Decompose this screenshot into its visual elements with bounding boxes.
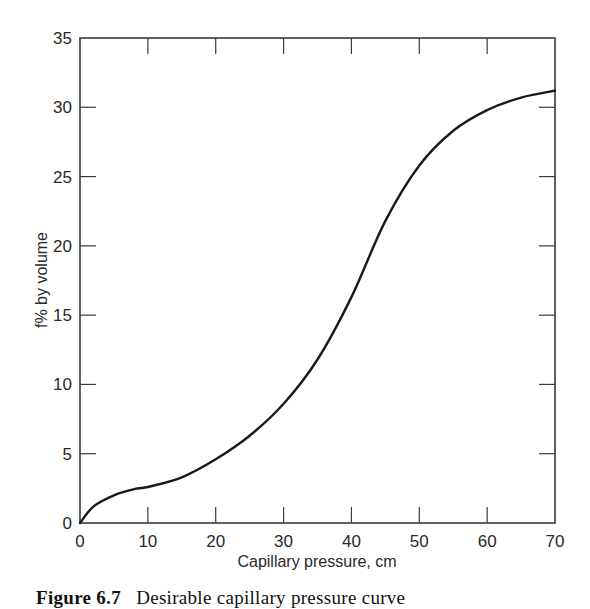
figure-caption: Figure 6.7 Desirable capillary pressure …	[36, 587, 405, 609]
y-tick-label: 10	[53, 375, 72, 394]
x-tick-label: 70	[546, 532, 565, 551]
axis-tick-labels: 01020304050607005101520253035	[53, 29, 564, 551]
data-curve	[80, 91, 555, 523]
y-tick-label: 35	[53, 29, 72, 48]
y-tick-label: 20	[53, 237, 72, 256]
y-tick-label: 5	[63, 445, 72, 464]
caption-text: Desirable capillary pressure curve	[136, 587, 405, 608]
x-tick-label: 30	[274, 532, 293, 551]
x-axis-title: Capillary pressure, cm	[237, 553, 396, 570]
caption-label: Figure 6.7	[36, 587, 121, 608]
y-tick-label: 25	[53, 168, 72, 187]
y-tick-label: 0	[63, 514, 72, 533]
x-tick-label: 20	[206, 532, 225, 551]
y-axis-title: f% by volume	[33, 232, 50, 328]
x-tick-label: 0	[75, 532, 84, 551]
x-tick-label: 10	[138, 532, 157, 551]
y-tick-label: 15	[53, 306, 72, 325]
x-tick-label: 60	[478, 532, 497, 551]
y-tick-label: 30	[53, 98, 72, 117]
x-tick-label: 40	[342, 532, 361, 551]
x-tick-label: 50	[410, 532, 429, 551]
